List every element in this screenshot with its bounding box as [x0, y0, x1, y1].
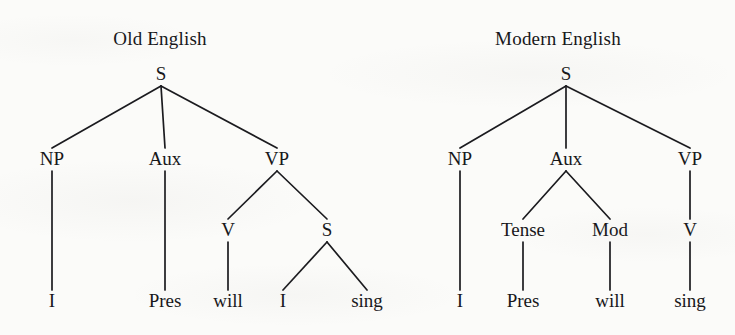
tree-edge-oe-s-to-oe-vp [161, 86, 277, 148]
terminal-me-t-sing: sing [674, 290, 706, 311]
tree-labels-layer: Old EnglishSNPAuxVPVSIPreswillIsingModer… [40, 28, 706, 311]
node-me-tense: Tense [501, 219, 545, 240]
tree-edge-me-aux-to-me-tense [523, 171, 566, 219]
node-me-v: V [683, 219, 697, 240]
node-oe-v: V [221, 219, 235, 240]
tree-edge-me-aux-to-me-mod [566, 171, 610, 219]
tree-edge-me-s-to-me-vp [566, 86, 690, 148]
node-me-mod: Mod [592, 219, 628, 240]
tree-edge-oe-s-to-oe-aux [161, 86, 165, 148]
syntax-tree-figure: Old EnglishSNPAuxVPVSIPreswillIsingModer… [0, 0, 735, 335]
node-me-vp: VP [678, 148, 702, 169]
tree-edge-oe-s-to-oe-np [52, 86, 161, 148]
tree-edge-oe-s2-to-oe-t-sing [327, 242, 367, 290]
node-me-np: NP [448, 148, 472, 169]
tree-edges-layer [52, 86, 690, 290]
tree-labels-old-english: Old EnglishSNPAuxVPVSIPreswillIsing [40, 28, 383, 311]
terminal-me-t-pres: Pres [507, 290, 540, 311]
tree-labels-modern-english: Modern EnglishSNPAuxVPTenseModVIPreswill… [448, 28, 706, 311]
node-oe-np: NP [40, 148, 64, 169]
node-me-s: S [561, 63, 572, 84]
node-oe-vp: VP [265, 148, 289, 169]
tree-edges-old-english [52, 86, 367, 290]
tree-title-old-english: Old English [113, 28, 207, 49]
tree-edge-oe-vp-to-oe-v [228, 171, 277, 219]
node-me-aux: Aux [550, 148, 583, 169]
terminal-oe-t-will: will [213, 290, 243, 311]
terminal-oe-t-i2: I [280, 290, 286, 311]
tree-edge-me-s-to-me-np [460, 86, 566, 148]
tree-title-modern-english: Modern English [495, 28, 621, 49]
node-oe-s2: S [322, 219, 333, 240]
node-oe-aux: Aux [149, 148, 182, 169]
terminal-oe-t-pres: Pres [149, 290, 182, 311]
tree-edges-modern-english [460, 86, 690, 290]
terminal-oe-t-sing: sing [351, 290, 383, 311]
terminal-me-t-will: will [595, 290, 625, 311]
node-oe-s: S [156, 63, 167, 84]
tree-edge-oe-vp-to-oe-s2 [277, 171, 327, 219]
terminal-oe-t-i: I [49, 290, 55, 311]
terminal-me-t-i: I [457, 290, 463, 311]
tree-edge-oe-s2-to-oe-t-i2 [283, 242, 327, 290]
